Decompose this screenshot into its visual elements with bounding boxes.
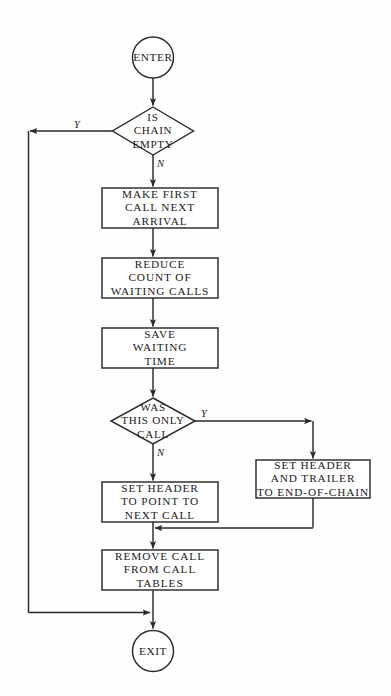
reduce-count-box-shape — [102, 258, 218, 298]
exit-terminal-shape — [133, 631, 174, 672]
remove-call-box-shape — [102, 550, 218, 590]
save-waiting-time-box-shape — [102, 328, 218, 368]
enter-terminal-shape — [133, 37, 174, 78]
flowchart-connectors-layer — [0, 0, 391, 696]
was-this-only-call-diamond-shape — [111, 398, 195, 444]
is-chain-empty-diamond-shape — [113, 107, 194, 155]
set-header-point-box-shape — [102, 482, 218, 522]
make-first-call-box-shape — [102, 188, 218, 228]
flowchart-diagram: ENTER IS CHAIN EMPTY Y N MAKE FIRST CALL… — [0, 0, 391, 696]
set-header-trailer-box-shape — [256, 460, 370, 498]
